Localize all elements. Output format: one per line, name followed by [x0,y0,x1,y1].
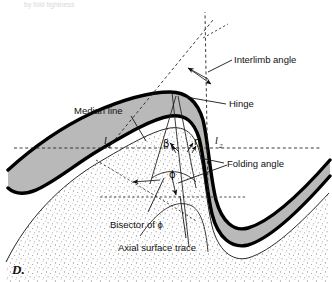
label-hinge: Hinge [229,98,254,109]
limb-1-letter: l [104,135,107,146]
tangent-extension [203,24,228,38]
panel-identifier: D. [11,262,25,277]
limb-1-subscript: 1 [108,142,112,150]
label-bisector-of-phi: Bisector of ϕ [110,219,163,230]
limb-2-letter: l [215,135,218,146]
fold-geometry-figure: by fold tightness [0,0,332,282]
cropped-page-text: by fold tightness [24,1,75,9]
label-axial-surface-trace: Axial surface trace [118,242,196,253]
symbol-eta: η [194,136,200,147]
interlimb-arrow-left [188,68,208,79]
interlimb-angle-leader [208,60,232,72]
label-interlimb-angle: Interlimb angle [234,54,296,65]
label-folding-angle: Folding angle [227,158,284,169]
interlimb-arrow-right [191,70,211,84]
limb-2-subscript: 2 [219,142,223,150]
label-median-line: Median line [74,105,123,116]
fold-diagram-svg: by fold tightness [0,0,332,282]
symbol-beta: β [163,138,169,149]
symbol-phi: ϕ [169,169,176,180]
